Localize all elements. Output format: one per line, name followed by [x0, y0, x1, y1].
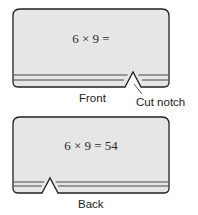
back-card — [13, 117, 169, 193]
cut-notch-label: Cut notch — [136, 96, 185, 108]
front-label: Front — [79, 92, 106, 104]
back-label: Back — [78, 198, 104, 210]
back-equation: 6 × 9 = 54 — [13, 138, 169, 154]
front-card — [13, 9, 169, 87]
front-equation: 6 × 9 = — [13, 31, 169, 47]
